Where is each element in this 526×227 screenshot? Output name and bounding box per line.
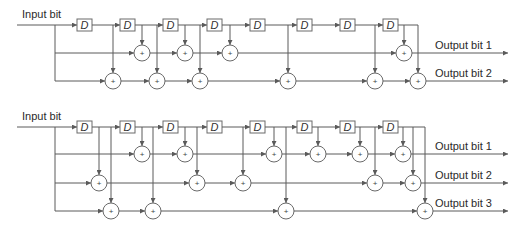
delay-label: D (167, 19, 175, 31)
delay-element: D (297, 19, 312, 31)
plus-icon: + (109, 207, 114, 216)
delay-label: D (254, 121, 262, 133)
plus-icon: + (155, 77, 160, 86)
encoder-diagram-1: Input bit Output bit 1 Output bit 2 DDDD… (17, 8, 508, 89)
adder: + (280, 73, 296, 89)
adder: + (177, 45, 193, 61)
adder: + (103, 203, 119, 219)
input-bit-label: Input bit (22, 8, 61, 20)
delay-label: D (344, 121, 352, 133)
adder: + (310, 146, 326, 162)
adder: + (395, 146, 411, 162)
delay-element: D (120, 121, 135, 133)
adder: + (352, 146, 368, 162)
delay-element: D (383, 19, 398, 31)
delay-label: D (124, 121, 132, 133)
output-bit-3-label: Output bit 3 (435, 197, 492, 209)
adder: + (405, 175, 421, 191)
adder: + (192, 73, 208, 89)
plus-icon: + (373, 179, 378, 188)
plus-icon: + (111, 77, 116, 86)
adder: + (134, 146, 150, 162)
delay-element: D (77, 19, 92, 31)
delay-label: D (301, 121, 309, 133)
adder: + (417, 203, 433, 219)
adder: + (177, 146, 193, 162)
delay-element: D (163, 121, 178, 133)
plus-icon: + (411, 179, 416, 188)
adder: + (278, 203, 294, 219)
plus-icon: + (97, 179, 102, 188)
adder: + (367, 175, 383, 191)
plus-icon: + (373, 77, 378, 86)
plus-icon: + (195, 179, 200, 188)
plus-icon: + (151, 207, 156, 216)
delay-element: D (297, 121, 312, 133)
delay-element: D (207, 121, 222, 133)
adder: + (266, 146, 282, 162)
adder: + (189, 175, 205, 191)
delay-element: D (250, 121, 265, 133)
adder: + (105, 73, 121, 89)
plus-icon: + (358, 150, 363, 159)
delay-element: D (340, 19, 355, 31)
plus-icon: + (198, 77, 203, 86)
delay-element: D (163, 19, 178, 31)
delay-label: D (387, 121, 395, 133)
plus-icon: + (241, 179, 246, 188)
delay-label: D (81, 19, 89, 31)
adder: + (145, 203, 161, 219)
plus-icon: + (284, 207, 289, 216)
delay-label: D (211, 121, 219, 133)
delay-label: D (124, 19, 132, 31)
delay-label: D (81, 121, 89, 133)
delay-element: D (207, 19, 222, 31)
output-bit-2-label: Output bit 2 (435, 169, 492, 181)
output-bit-2-label: Output bit 2 (435, 67, 492, 79)
plus-icon: + (402, 49, 407, 58)
delay-element: D (120, 19, 135, 31)
delay-element: D (250, 19, 265, 31)
adder: + (235, 175, 251, 191)
output-bit-1-label: Output bit 1 (435, 39, 492, 51)
delay-label: D (344, 19, 352, 31)
delay-label: D (387, 19, 395, 31)
delay-element: D (77, 121, 92, 133)
input-bit-label: Input bit (22, 110, 61, 122)
adder: + (91, 175, 107, 191)
delay-element: D (340, 121, 355, 133)
plus-icon: + (416, 77, 421, 86)
delay-label: D (301, 19, 309, 31)
plus-icon: + (183, 49, 188, 58)
output-bit-1-label: Output bit 1 (435, 140, 492, 152)
adder: + (396, 45, 412, 61)
adder: + (410, 73, 426, 89)
adder: + (367, 73, 383, 89)
convolutional-encoder-diagrams: Input bit Output bit 1 Output bit 2 DDDD… (0, 0, 526, 227)
plus-icon: + (183, 150, 188, 159)
delay-element: D (383, 121, 398, 133)
plus-icon: + (401, 150, 406, 159)
encoder-diagram-2: Input bit Output bit 1 Output bit 2 Outp… (17, 110, 508, 219)
adder: + (134, 45, 150, 61)
plus-icon: + (140, 150, 145, 159)
plus-icon: + (140, 49, 145, 58)
adder: + (222, 45, 238, 61)
plus-icon: + (423, 207, 428, 216)
plus-icon: + (316, 150, 321, 159)
plus-icon: + (286, 77, 291, 86)
adder: + (149, 73, 165, 89)
delay-label: D (167, 121, 175, 133)
plus-icon: + (228, 49, 233, 58)
delay-label: D (254, 19, 262, 31)
plus-icon: + (272, 150, 277, 159)
delay-label: D (211, 19, 219, 31)
